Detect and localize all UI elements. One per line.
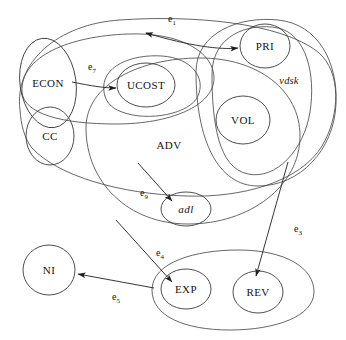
node-label-econ: ECON [32, 77, 64, 89]
node-label-ucost: UCOST [127, 79, 165, 91]
diagram-canvas: e1 e7 e9 e4 e3 e5 ECON CC UCOST PRI VOL … [0, 0, 346, 340]
node-label-rev: REV [246, 286, 269, 298]
node-label-adl: adl [178, 203, 193, 215]
edge-e3: e3 [256, 162, 302, 276]
edge-e1-label: e1 [168, 13, 176, 27]
region-label-vdsk: vdsk [279, 75, 299, 86]
node-label-ni: NI [43, 264, 55, 276]
edge-e4: e4 [116, 220, 172, 282]
edge-e7-label: e7 [88, 61, 96, 75]
euler-diagram-svg: e1 e7 e9 e4 e3 e5 ECON CC UCOST PRI VOL … [0, 0, 346, 340]
edge-e4-line [116, 220, 172, 282]
node-label-exp: EXP [175, 283, 197, 295]
edge-e9-label: e9 [140, 187, 148, 201]
node-label-pri: PRI [256, 40, 274, 52]
edge-e7-line [72, 82, 116, 88]
node-label-cc: CC [42, 130, 57, 142]
edge-e3-label: e3 [294, 223, 302, 237]
node-label-vol: VOL [231, 114, 255, 126]
edge-e5-label: e5 [112, 291, 120, 305]
region-outline-adv [86, 58, 300, 224]
edge-e5: e5 [78, 274, 154, 305]
edge-e9: e9 [138, 163, 172, 201]
edge-e5-line [78, 274, 154, 288]
region-outline-outer [19, 19, 335, 197]
edge-e3-line [256, 162, 288, 276]
edge-e4-label: e4 [156, 247, 164, 261]
region-label-adv: ADV [156, 139, 181, 151]
